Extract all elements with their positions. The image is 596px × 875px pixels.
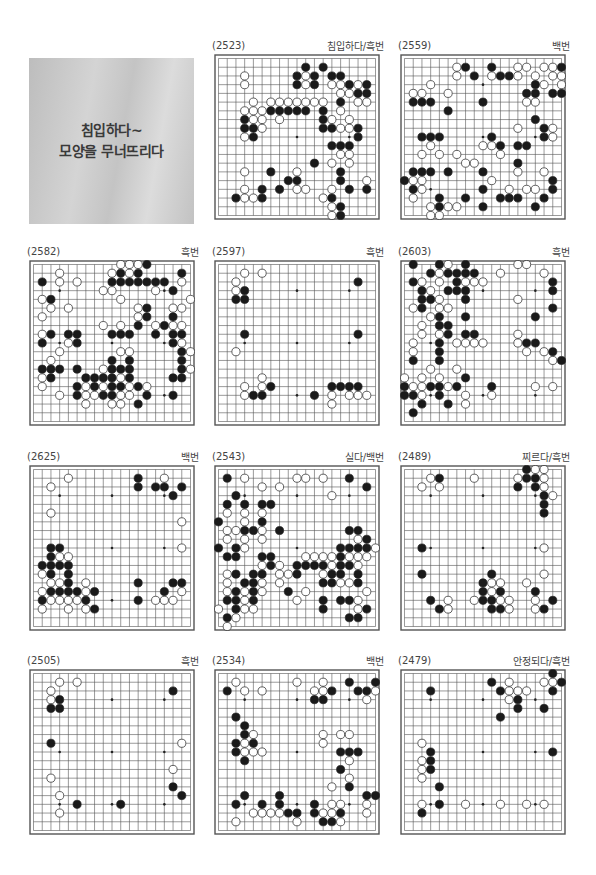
white-stone <box>73 278 81 286</box>
star-point <box>296 494 299 497</box>
go-board <box>214 260 380 426</box>
black-stone <box>38 365 46 373</box>
white-stone <box>418 374 426 382</box>
black-stone <box>461 63 469 71</box>
black-stone <box>540 509 548 517</box>
white-stone <box>82 605 90 613</box>
star-point <box>348 494 351 497</box>
star-point <box>534 494 537 497</box>
white-stone <box>232 278 240 286</box>
white-stone <box>409 383 417 391</box>
black-stone <box>345 81 353 89</box>
black-stone <box>409 260 417 268</box>
white-stone <box>310 553 318 561</box>
black-stone <box>73 339 81 347</box>
black-stone <box>169 287 177 295</box>
star-point <box>429 394 432 397</box>
problem-number: (2523) <box>212 40 245 51</box>
white-stone <box>284 570 292 578</box>
black-stone <box>345 783 353 791</box>
white-stone <box>488 579 496 587</box>
black-stone <box>249 133 257 141</box>
black-stone <box>523 89 531 97</box>
white-stone <box>427 365 435 373</box>
black-stone <box>444 321 452 329</box>
black-stone <box>531 81 539 89</box>
white-stone <box>117 348 125 356</box>
black-stone <box>461 269 469 277</box>
black-stone <box>549 596 557 604</box>
black-stone <box>479 185 487 193</box>
white-stone <box>38 374 46 382</box>
white-stone <box>302 588 310 596</box>
white-stone <box>470 159 478 167</box>
problem-label: 찌르다/흑번 <box>522 449 570 464</box>
black-stone <box>345 383 353 391</box>
white-stone <box>125 348 133 356</box>
black-stone <box>267 553 275 561</box>
white-stone <box>82 400 90 408</box>
black-stone <box>169 391 177 399</box>
problem-label: 실다/백번 <box>345 449 384 464</box>
black-stone <box>427 133 435 141</box>
black-stone <box>488 678 496 686</box>
white-stone <box>249 809 257 817</box>
black-stone <box>319 605 327 613</box>
black-stone <box>488 570 496 578</box>
problem-panel: (2523)침입하다/흑번 <box>212 38 384 54</box>
black-stone <box>427 168 435 176</box>
black-stone <box>258 800 266 808</box>
star-point <box>348 803 351 806</box>
star-point <box>296 394 299 397</box>
white-stone <box>418 330 426 338</box>
black-stone <box>232 553 240 561</box>
black-stone <box>249 579 257 587</box>
black-stone <box>345 526 353 534</box>
white-stone <box>152 596 160 604</box>
black-stone <box>435 391 443 399</box>
black-stone <box>223 614 231 622</box>
black-stone <box>134 596 142 604</box>
white-stone <box>540 168 548 176</box>
black-stone <box>409 98 417 106</box>
white-stone <box>117 374 125 382</box>
black-stone <box>345 748 353 756</box>
black-stone <box>232 194 240 202</box>
star-point <box>58 751 61 754</box>
white-stone <box>143 383 151 391</box>
black-stone <box>99 374 107 382</box>
black-stone <box>328 142 336 150</box>
white-stone <box>514 330 522 338</box>
black-stone <box>319 818 327 826</box>
white-stone <box>505 696 513 704</box>
white-stone <box>117 321 125 329</box>
star-point <box>429 547 432 550</box>
white-stone <box>241 168 249 176</box>
star-point <box>111 599 114 602</box>
star-point <box>163 698 166 701</box>
black-stone <box>435 339 443 347</box>
black-stone <box>267 383 275 391</box>
white-stone <box>418 177 426 185</box>
black-stone <box>435 348 443 356</box>
black-stone <box>337 561 345 569</box>
white-stone <box>319 678 327 686</box>
star-point <box>534 394 537 397</box>
white-stone <box>400 374 408 382</box>
white-stone <box>241 383 249 391</box>
white-stone <box>354 535 362 543</box>
white-stone <box>514 63 522 71</box>
white-stone <box>99 365 107 373</box>
black-stone <box>223 687 231 695</box>
black-stone <box>284 588 292 596</box>
white-stone <box>64 339 72 347</box>
white-stone <box>319 553 327 561</box>
black-stone <box>427 596 435 604</box>
white-stone <box>337 579 345 587</box>
white-stone <box>64 605 72 613</box>
white-stone <box>363 553 371 561</box>
white-stone <box>540 465 548 473</box>
white-stone <box>186 348 194 356</box>
go-board <box>214 669 380 835</box>
black-stone <box>363 81 371 89</box>
